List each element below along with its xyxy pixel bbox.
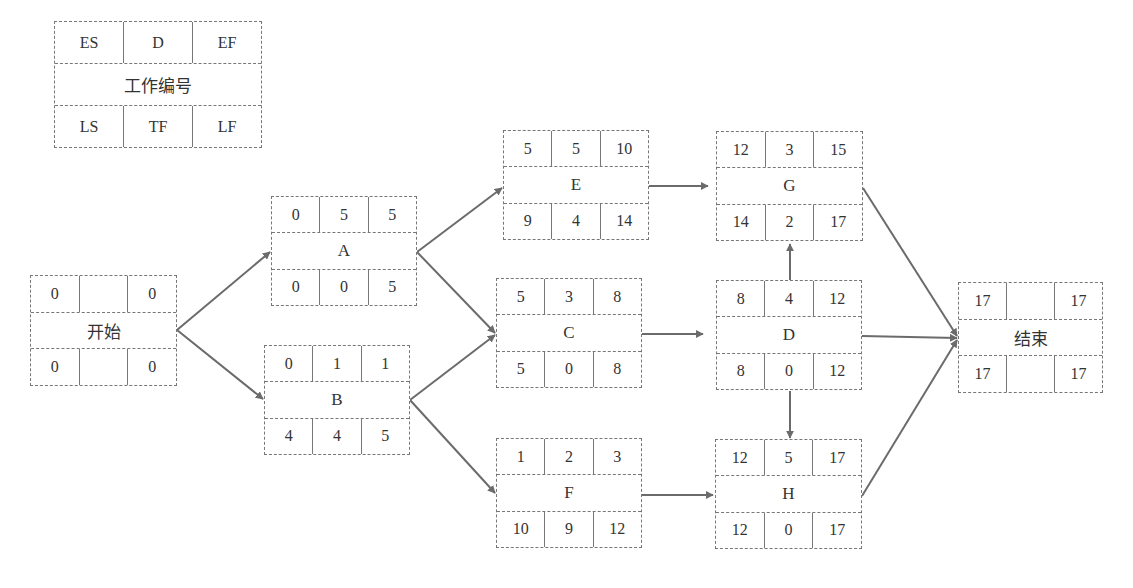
legend-lf: LF [192,106,261,147]
g-tf: 2 [765,205,814,240]
edge-A-E [417,188,502,252]
f-ef: 3 [593,439,641,474]
f-es: 1 [497,439,544,474]
start-tf [79,349,128,385]
e-ef: 10 [600,131,648,166]
f-name: F [497,475,641,510]
a-d: 5 [319,197,367,232]
legend-ls: LS [55,106,123,147]
d-es: 8 [717,281,764,316]
e-tf: 4 [551,204,599,239]
edge-start-A [177,252,270,330]
a-tf: 0 [319,270,367,305]
edge-start-B [177,330,263,399]
h-lf: 17 [812,513,861,548]
c-d: 3 [544,279,592,314]
c-tf: 0 [544,352,592,387]
node-f: 1 2 3 F 10 9 12 [496,438,642,548]
start-lf: 0 [127,349,176,385]
e-name: E [504,167,648,202]
e-lf: 14 [600,204,648,239]
a-ls: 0 [272,270,319,305]
g-ls: 14 [717,205,765,240]
start-es: 0 [31,276,79,312]
node-b: 0 1 1 B 4 4 5 [264,345,410,455]
b-ef: 1 [361,346,409,381]
f-tf: 9 [544,512,592,547]
h-es: 12 [716,440,764,475]
a-name: A [272,233,416,268]
edge-G-end [863,188,957,336]
a-es: 0 [272,197,319,232]
e-d: 5 [551,131,599,166]
legend-ef: EF [192,22,261,63]
edge-A-C [417,252,495,333]
a-lf: 5 [368,270,416,305]
d-name: D [717,317,861,352]
edge-B-C [410,335,495,400]
legend-name: 工作编号 [55,64,261,105]
g-es: 12 [717,132,765,167]
d-ls: 8 [717,354,764,389]
d-tf: 0 [764,354,812,389]
c-ef: 8 [593,279,641,314]
legend-es: ES [55,22,123,63]
node-end: 17 17 结束 17 17 [958,282,1103,393]
d-lf: 12 [813,354,861,389]
node-e: 5 5 10 E 9 4 14 [503,130,649,240]
h-d: 5 [764,440,813,475]
start-ef: 0 [127,276,176,312]
g-d: 3 [765,132,814,167]
h-ef: 17 [812,440,861,475]
g-lf: 17 [813,205,862,240]
legend-box: ES D EF 工作编号 LS TF LF [54,21,262,148]
g-name: G [717,168,862,203]
d-d: 4 [764,281,812,316]
start-d [79,276,128,312]
end-tf [1006,356,1054,392]
end-d [1006,283,1054,319]
e-es: 5 [504,131,551,166]
node-a: 0 5 5 A 0 0 5 [271,196,417,306]
e-ls: 9 [504,204,551,239]
node-g: 12 3 15 G 14 2 17 [716,131,863,241]
edge-B-F [410,400,495,493]
a-ef: 5 [368,197,416,232]
node-d: 8 4 12 D 8 0 12 [716,280,862,390]
f-ls: 10 [497,512,544,547]
b-d: 1 [312,346,360,381]
end-lf: 17 [1054,356,1102,392]
end-name: 结束 [959,320,1102,356]
c-lf: 8 [593,352,641,387]
end-ef: 17 [1054,283,1102,319]
node-start: 0 0 开始 0 0 [30,275,177,386]
start-name: 开始 [31,313,176,349]
edge-H-end [862,340,957,496]
d-ef: 12 [813,281,861,316]
h-name: H [716,476,861,511]
start-ls: 0 [31,349,79,385]
f-lf: 12 [593,512,641,547]
node-c: 5 3 8 C 5 0 8 [496,278,642,388]
end-ls: 17 [959,356,1006,392]
b-lf: 5 [361,419,409,454]
end-es: 17 [959,283,1006,319]
b-ls: 4 [265,419,312,454]
f-d: 2 [544,439,592,474]
edge-D-end [862,336,957,338]
h-tf: 0 [764,513,813,548]
c-name: C [497,315,641,350]
g-ef: 15 [813,132,862,167]
node-h: 12 5 17 H 12 0 17 [715,439,862,549]
b-es: 0 [265,346,312,381]
b-tf: 4 [312,419,360,454]
h-ls: 12 [716,513,764,548]
c-ls: 5 [497,352,544,387]
b-name: B [265,382,409,417]
legend-tf: TF [123,106,192,147]
c-es: 5 [497,279,544,314]
legend-d: D [123,22,192,63]
